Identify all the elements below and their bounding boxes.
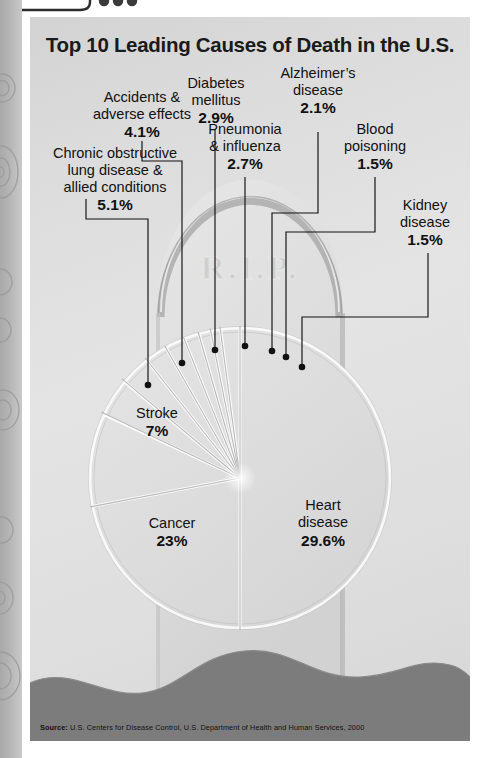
pie-label-stroke: Stroke 7%	[112, 405, 202, 441]
source-citation: Source: U.S. Centers for Disease Control…	[40, 723, 460, 732]
source-label: Source:	[40, 723, 68, 732]
source-text: U.S. Centers for Disease Control, U.S. D…	[68, 723, 364, 732]
callout-line-1: Alzheimer’s	[280, 65, 355, 81]
pie-label-value: 29.6%	[268, 532, 378, 551]
callout-value: 1.5%	[380, 231, 470, 249]
pie-label-name: Stroke	[136, 405, 178, 421]
pie-label-value: 23%	[122, 532, 222, 551]
callout-line-1: Pneumonia	[208, 121, 281, 137]
pie-label-value: 7%	[112, 422, 202, 441]
callout-line-1: Blood	[356, 121, 393, 137]
callout-kidney-disease: Kidney disease 1.5%	[380, 197, 470, 250]
book-binding-strip	[0, 0, 22, 758]
callout-line-2: disease	[293, 82, 343, 98]
callout-line-1: Kidney	[403, 197, 447, 213]
browser-chrome-sliver	[0, 0, 478, 14]
callout-value: 2.7%	[182, 155, 308, 173]
pie-label-cancer: Cancer 23%	[122, 515, 222, 551]
callout-line-2: mellitus	[191, 92, 240, 108]
callout-alzheimers-disease: Alzheimer’s disease 2.1%	[260, 65, 376, 118]
pie-label-name2: disease	[298, 514, 348, 530]
callout-value: 1.5%	[324, 155, 426, 173]
callout-line-3: allied conditions	[63, 179, 166, 195]
callout-value: 2.1%	[260, 99, 376, 117]
callout-line-2: lung disease &	[67, 162, 162, 178]
pie-chart	[88, 326, 392, 630]
callout-line-2: disease	[400, 214, 450, 230]
pie-label-name: Cancer	[149, 515, 196, 531]
page-root: Top 10 Leading Causes of Death in the U.…	[0, 0, 478, 758]
callout-blood-poisoning: Blood poisoning 1.5%	[324, 121, 426, 174]
callout-line-1: Accidents &	[104, 89, 181, 105]
callout-pneumonia-influenza: Pneumonia & influenza 2.7%	[182, 121, 308, 174]
callout-value: 5.1%	[30, 196, 200, 214]
callout-diabetes-mellitus: Diabetes mellitus 2.9%	[170, 75, 262, 128]
callout-line-1: Chronic obstructive	[53, 145, 177, 161]
callout-line-2: poisoning	[344, 138, 406, 154]
pie-label-heart-disease: Heart disease 29.6%	[268, 497, 378, 550]
callout-line-2: & influenza	[209, 138, 281, 154]
callout-chronic-obstructive-lung-disease: Chronic obstructive lung disease & allie…	[30, 145, 200, 215]
infographic-card: Top 10 Leading Causes of Death in the U.…	[30, 17, 470, 741]
callout-line-1: Diabetes	[187, 75, 244, 91]
pie-label-name: Heart	[305, 497, 340, 513]
